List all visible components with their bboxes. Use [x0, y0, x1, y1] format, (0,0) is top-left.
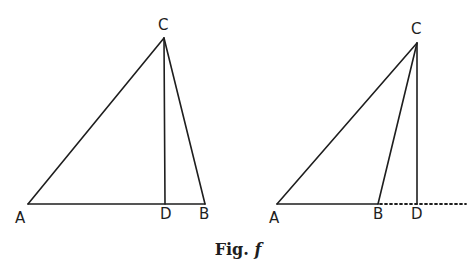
left-side-ac — [28, 38, 164, 204]
right-label-c: C — [411, 22, 421, 37]
caption-prefix: Fig. — [215, 240, 249, 259]
geometry-figure — [0, 0, 476, 276]
right-label-b: B — [373, 207, 383, 222]
caption-letter: f — [254, 240, 261, 259]
left-altitude-cd — [164, 38, 165, 204]
figure-caption: Fig. f — [0, 240, 476, 259]
left-label-b: B — [199, 207, 209, 222]
right-label-a: A — [269, 211, 279, 226]
left-label-d: D — [160, 207, 172, 222]
right-side-cb — [378, 43, 417, 204]
left-side-cb — [164, 38, 205, 204]
right-side-ac — [277, 43, 417, 204]
left-label-a: A — [15, 211, 25, 226]
right-label-d: D — [411, 207, 423, 222]
left-label-c: C — [158, 18, 168, 33]
